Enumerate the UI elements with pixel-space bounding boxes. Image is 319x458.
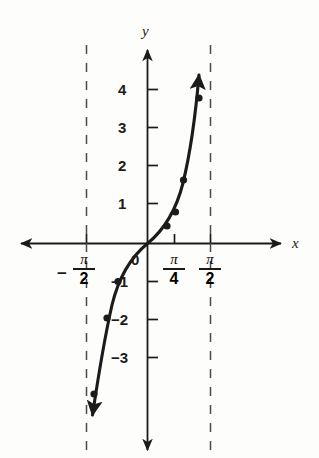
data-point (103, 314, 110, 321)
fraction-denominator: 4 (163, 271, 185, 287)
y-tick-label-neg3: −3 (111, 350, 128, 365)
x-tick-minus-sign: − (57, 264, 67, 284)
fraction-numerator: π (73, 252, 95, 267)
fraction-denominator: 2 (73, 271, 95, 287)
data-point (180, 176, 187, 183)
asymptote-lines (87, 45, 211, 455)
data-point (195, 94, 202, 101)
x-axis-label: x (292, 236, 299, 251)
x-tick-label-pi-over-2: π 2 (199, 252, 221, 287)
y-tick-label-4: 4 (118, 82, 126, 97)
y-tick-label-2: 2 (118, 158, 126, 173)
x-tick-label-pi-over-4: π 4 (163, 252, 185, 287)
y-tick-marks (148, 90, 159, 358)
fraction-denominator: 2 (199, 271, 221, 287)
tangent-curve (93, 75, 200, 415)
x-tick-label-neg-pi-over-2: π 2 (73, 252, 95, 287)
y-tick-label-1: 1 (118, 196, 126, 211)
plot-canvas (0, 0, 319, 458)
tangent-graph-figure: y x 0 4 3 2 1 −1 −2 −3 − π 2 π 4 π 2 (0, 0, 319, 458)
fraction-numerator: π (163, 252, 185, 267)
fraction-numerator: π (199, 252, 221, 267)
origin-label: 0 (131, 252, 139, 267)
y-axis-label: y (142, 24, 149, 39)
data-point (163, 222, 170, 229)
y-tick-label-3: 3 (118, 120, 126, 135)
data-point (172, 208, 179, 215)
data-point (90, 390, 97, 397)
y-tick-label-neg1: −1 (111, 274, 128, 289)
y-tick-label-neg2: −2 (111, 312, 128, 327)
